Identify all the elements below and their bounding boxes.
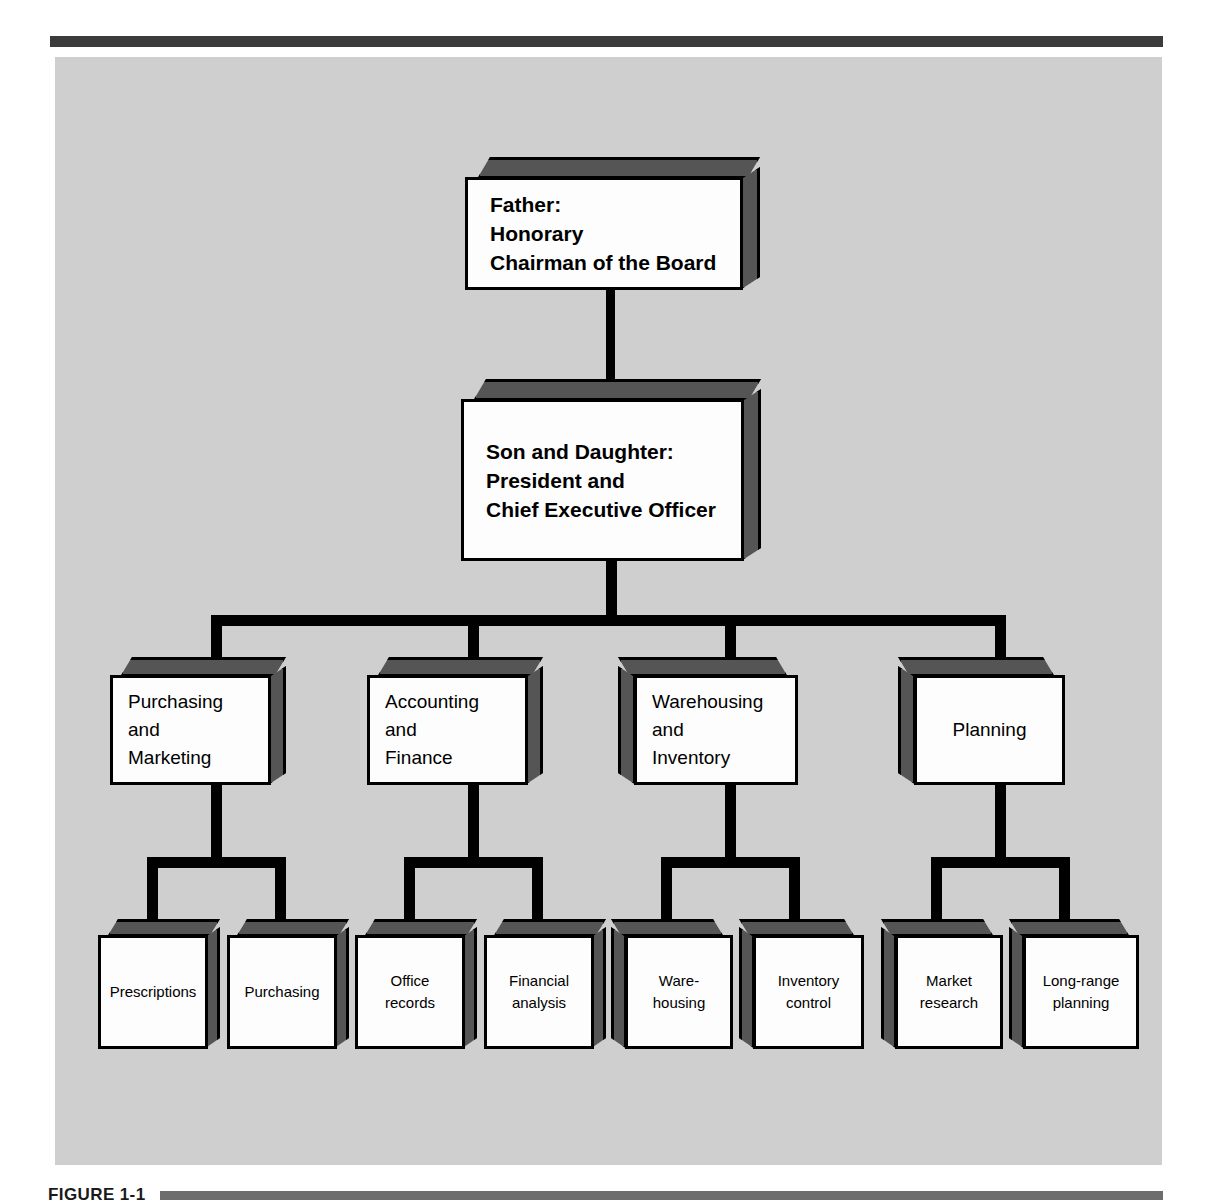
connector-father-to-son [606,287,615,383]
node-front-face: Long-range planning [1023,935,1139,1049]
node-long-range-planning[interactable]: Long-range planning [1009,919,1139,1049]
node-side-face [741,389,761,561]
node-label: Planning [917,716,1062,744]
node-front-face: Prescriptions [98,935,208,1049]
node-front-face: Son and Daughter: President and Chief Ex… [461,399,744,561]
connector-af-bar [404,857,543,868]
node-label: Financial analysis [487,970,591,1014]
node-accounting-and-finance[interactable]: Accounting and Finance [367,657,543,785]
figure-panel: Father: Honorary Chairman of the Board S… [55,57,1162,1165]
node-label: Market research [898,970,1000,1014]
connector-pm-stem [211,777,222,865]
node-top-face [120,657,286,677]
node-label: Long-range planning [1026,970,1136,1014]
node-front-face: Financial analysis [484,935,594,1049]
node-front-face: Ware- housing [625,935,733,1049]
node-inventory-control[interactable]: Inventory control [739,919,864,1049]
organization-chart: Father: Honorary Chairman of the Board S… [55,57,1162,1165]
node-label: Father: Honorary Chairman of the Board [468,190,740,277]
node-front-face: Purchasing [227,935,337,1049]
node-top-face [377,657,543,677]
node-top-face [898,657,1055,677]
node-label: Accounting and Finance [370,688,525,772]
node-label: Warehousing and Inventory [637,688,795,772]
figure-caption-label: FIGURE 1-1 [48,1188,146,1202]
node-front-face: Market research [895,935,1003,1049]
connector-pm-bar [147,857,286,868]
connector-level3-bus [211,615,1006,626]
node-label: Purchasing and Marketing [113,688,268,772]
node-warehousing[interactable]: Ware- housing [611,919,733,1049]
node-top-face [477,157,760,179]
node-purchasing[interactable]: Purchasing [227,919,349,1049]
node-warehousing-and-inventory[interactable]: Warehousing and Inventory [618,657,798,785]
connector-pl-stem [995,777,1006,865]
node-front-face: Father: Honorary Chairman of the Board [465,177,743,290]
node-label: Purchasing [230,981,334,1003]
node-label: Ware- housing [628,970,730,1014]
node-front-face: Warehousing and Inventory [634,675,798,785]
node-father-honorary-chairman[interactable]: Father: Honorary Chairman of the Board [465,157,760,290]
connector-wi-bar [661,857,800,868]
node-purchasing-and-marketing[interactable]: Purchasing and Marketing [110,657,286,785]
node-prescriptions[interactable]: Prescriptions [98,919,220,1049]
node-front-face: Planning [914,675,1065,785]
node-top-face [473,379,761,401]
node-office-records[interactable]: Office records [355,919,477,1049]
connector-son-stem [606,555,617,623]
node-label: Inventory control [756,970,861,1014]
node-planning[interactable]: Planning [898,657,1065,785]
node-label: Prescriptions [101,981,205,1003]
page-top-rule [50,36,1163,47]
node-front-face: Purchasing and Marketing [110,675,271,785]
connector-af-stem [468,777,479,865]
node-front-face: Accounting and Finance [367,675,528,785]
node-side-face [740,167,760,290]
node-financial-analysis[interactable]: Financial analysis [484,919,606,1049]
node-label: Son and Daughter: President and Chief Ex… [464,437,741,524]
node-front-face: Inventory control [753,935,864,1049]
node-son-daughter-president-ceo[interactable]: Son and Daughter: President and Chief Ex… [461,379,761,561]
figure-caption: FIGURE 1-1 [48,1188,1163,1202]
node-market-research[interactable]: Market research [881,919,1003,1049]
figure-caption-rule [160,1191,1163,1200]
node-label: Office records [358,970,462,1014]
connector-wi-stem [725,777,736,865]
connector-pl-bar [931,857,1070,868]
node-front-face: Office records [355,935,465,1049]
node-top-face [618,657,788,677]
